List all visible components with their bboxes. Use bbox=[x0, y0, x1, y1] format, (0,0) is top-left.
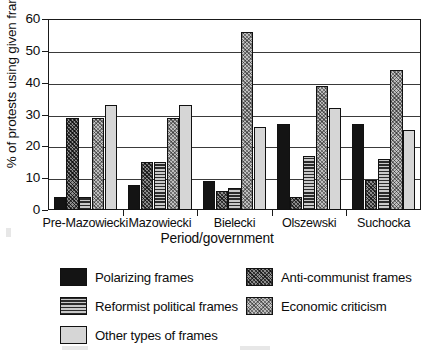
bar-group bbox=[272, 19, 347, 210]
bar bbox=[390, 70, 402, 210]
x-tick-mark bbox=[123, 210, 124, 216]
bar bbox=[216, 191, 228, 210]
bar bbox=[329, 108, 341, 210]
scan-artifact bbox=[240, 346, 270, 350]
legend-item: Polarizing frames bbox=[60, 268, 193, 286]
bar bbox=[92, 118, 104, 210]
bar bbox=[203, 181, 215, 210]
y-tick-label: 0 bbox=[10, 203, 40, 217]
bar-group bbox=[197, 19, 272, 210]
bar-group bbox=[48, 19, 123, 210]
x-axis-title: Period/government bbox=[0, 231, 434, 246]
bar bbox=[352, 124, 364, 210]
y-tick-label: 60 bbox=[10, 12, 40, 26]
bar bbox=[179, 105, 191, 210]
bar bbox=[277, 124, 289, 210]
y-tick-label: 50 bbox=[10, 44, 40, 58]
bar bbox=[128, 185, 140, 210]
bar bbox=[228, 188, 240, 210]
legend-label: Economic criticism bbox=[281, 299, 387, 314]
y-tick-label: 40 bbox=[10, 76, 40, 90]
bar bbox=[241, 32, 253, 210]
bar bbox=[303, 156, 315, 210]
y-tick-label: 10 bbox=[10, 171, 40, 185]
x-tick-mark bbox=[197, 210, 198, 216]
legend: Polarizing framesAnti-communist framesRe… bbox=[60, 268, 420, 350]
bar-group bbox=[123, 19, 198, 210]
legend-item: Other types of frames bbox=[60, 326, 218, 344]
bar bbox=[167, 118, 179, 210]
legend-swatch bbox=[246, 297, 273, 315]
legend-label: Other types of frames bbox=[95, 328, 218, 343]
bar-chart-figure: % of protests using given frames 0102030… bbox=[0, 0, 434, 356]
bar-groups bbox=[48, 19, 421, 210]
bar bbox=[290, 197, 302, 210]
legend-label: Polarizing frames bbox=[95, 270, 193, 285]
scan-artifact bbox=[6, 228, 11, 237]
legend-label: Reformist political frames bbox=[95, 299, 238, 314]
legend-swatch bbox=[246, 268, 273, 286]
bar-group bbox=[346, 19, 421, 210]
x-tick-mark bbox=[272, 210, 273, 216]
bar bbox=[79, 197, 91, 210]
legend-swatch bbox=[60, 326, 87, 344]
y-tick-mark bbox=[42, 210, 48, 211]
bar bbox=[316, 86, 328, 210]
bar bbox=[403, 130, 415, 210]
x-tick-label: Suchocka bbox=[338, 216, 429, 230]
legend-item: Reformist political frames bbox=[60, 297, 238, 315]
bar bbox=[365, 180, 377, 210]
bar bbox=[66, 118, 78, 210]
legend-label: Anti-communist frames bbox=[281, 270, 412, 285]
bar bbox=[105, 105, 117, 210]
legend-item: Economic criticism bbox=[246, 297, 387, 315]
bar bbox=[141, 162, 153, 210]
legend-swatch bbox=[60, 268, 87, 286]
bar bbox=[378, 159, 390, 210]
y-tick-label: 30 bbox=[10, 108, 40, 122]
legend-item: Anti-communist frames bbox=[246, 268, 412, 286]
scan-artifact bbox=[62, 346, 88, 350]
bar bbox=[154, 162, 166, 210]
bar bbox=[254, 127, 266, 210]
bar bbox=[54, 197, 66, 210]
x-tick-mark bbox=[346, 210, 347, 216]
legend-swatch bbox=[60, 297, 87, 315]
y-tick-label: 20 bbox=[10, 139, 40, 153]
